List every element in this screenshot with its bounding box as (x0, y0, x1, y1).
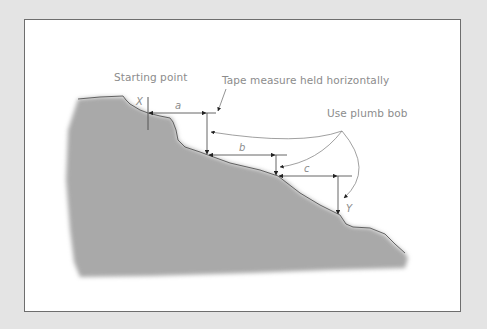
plumb-bob-label: Use plumb bob (327, 107, 407, 119)
segment-b-label: b (239, 142, 245, 153)
segment-c-label: c (304, 163, 310, 174)
segment-a-label: a (175, 100, 181, 111)
starting-point-label: Starting point (114, 71, 187, 83)
point-y-label: Y (346, 203, 352, 214)
point-x-label: X (136, 96, 143, 107)
tape-leader-line (218, 89, 226, 111)
ground-slope (66, 96, 408, 277)
slope-diagram (0, 0, 487, 329)
tape-measure-label: Tape measure held horizontally (222, 74, 389, 86)
